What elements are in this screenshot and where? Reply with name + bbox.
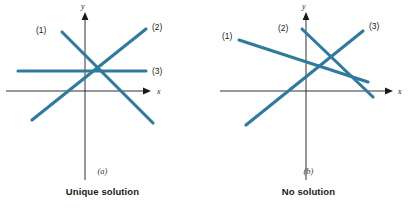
line-label-2: (2) <box>152 22 163 32</box>
panel-no-solution: x y (1) (2) (3) (b) No solution <box>206 0 411 208</box>
y-axis-label: y <box>80 2 85 11</box>
panel-caption-b: No solution <box>206 186 411 197</box>
linear-systems-figure: x y (1) (2) (3) (a) Unique solution <box>0 0 411 208</box>
equation-line-2 <box>32 29 146 120</box>
x-axis-arrowhead <box>143 88 151 95</box>
line-label-1: (1) <box>222 31 233 41</box>
equation-lines-a <box>18 29 153 123</box>
y-axis-label: y <box>301 2 306 11</box>
y-axis-arrowhead <box>82 12 89 20</box>
line-label-2: (2) <box>278 23 289 33</box>
y-axis-arrowhead <box>303 12 310 20</box>
equation-line-3 <box>246 31 363 125</box>
panel-unique-solution: x y (1) (2) (3) (a) Unique solution <box>0 0 205 208</box>
x-axis-group-b: x <box>220 87 402 96</box>
panel-b-graph: x y (1) (2) (3) <box>206 0 411 208</box>
x-axis-label: x <box>156 87 161 96</box>
equation-line-1 <box>62 32 153 123</box>
x-axis-group-a: x <box>6 87 161 96</box>
line-label-3: (3) <box>152 66 163 76</box>
x-axis-label: x <box>397 87 402 96</box>
line-label-1: (1) <box>36 25 47 35</box>
panel-a-graph: x y (1) (2) (3) <box>0 0 205 208</box>
x-axis-arrowhead <box>385 88 393 95</box>
panel-letter-b: (b) <box>206 166 411 176</box>
panel-caption-a: Unique solution <box>0 186 205 197</box>
panel-letter-a: (a) <box>0 166 205 176</box>
line-label-3: (3) <box>369 21 380 31</box>
